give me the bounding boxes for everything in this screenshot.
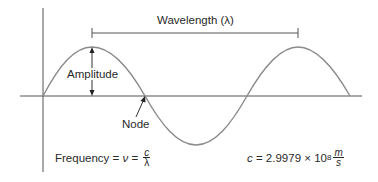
frequency-equals: = [128, 152, 141, 164]
amplitude-label: Amplitude [66, 68, 119, 80]
node-arrowhead [141, 96, 146, 103]
node-label: Node [122, 118, 150, 130]
amplitude-arrowhead-down [90, 90, 95, 96]
fraction-denominator: λ [143, 158, 150, 167]
unit-fraction: m s [333, 148, 343, 167]
wavelength-label: Wavelength (λ) [157, 14, 234, 26]
amplitude-arrowhead-up [90, 47, 95, 53]
frequency-fraction: c λ [143, 148, 150, 167]
frequency-prefix: Frequency = [55, 152, 122, 164]
frequency-formula: Frequency = ν = c λ [55, 148, 150, 167]
c-value: = 2.9979 × 10 [253, 152, 327, 164]
speed-of-light-formula: c = 2.9979 × 10 8 m s [247, 148, 344, 167]
unit-denominator: s [335, 158, 342, 167]
node-pointer [136, 99, 144, 117]
